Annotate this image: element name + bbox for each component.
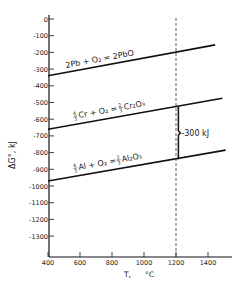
svg-text:3: 3 <box>73 115 77 121</box>
svg-text:Cr₂O₃: Cr₂O₃ <box>123 99 146 112</box>
svg-text:3: 3 <box>73 167 77 173</box>
y-tick-label: -100 <box>33 32 48 40</box>
x-axis: 400600800100012001400 <box>42 252 232 267</box>
y-tick-label: -600 <box>33 116 48 124</box>
y-tick-label: 0 <box>44 16 48 24</box>
x-tick-label: 1200 <box>168 259 185 267</box>
x-axis-title-t: T, <box>123 270 131 279</box>
y-tick-label: -1000 <box>29 183 48 191</box>
x-axis-title-unit: °C <box>145 270 154 279</box>
difference-bracket <box>177 108 180 159</box>
y-axis: 0-100-200-300-400-500-600-700-800-900-10… <box>29 15 54 257</box>
y-tick-label: -1100 <box>29 199 48 207</box>
y-tick-label: -1200 <box>29 216 48 224</box>
y-tick-label: -1300 <box>29 233 48 241</box>
difference-label: -300 kJ <box>181 129 209 138</box>
x-tick-label: 600 <box>74 259 86 267</box>
x-tick-label: 800 <box>106 259 118 267</box>
y-tick-label: -300 <box>33 66 48 74</box>
svg-text:3: 3 <box>119 107 123 113</box>
gibbs-energy-chart: 0-100-200-300-400-500-600-700-800-900-10… <box>0 0 246 297</box>
y-axis-title: ΔG°, kJ <box>8 141 17 169</box>
x-tick-label: 400 <box>42 259 54 267</box>
y-tick-label: -400 <box>33 82 48 90</box>
y-tick-label: -900 <box>33 166 48 174</box>
svg-text:Al₂O₃: Al₂O₃ <box>121 151 143 164</box>
x-tick-label: 1400 <box>200 259 217 267</box>
y-tick-label: -700 <box>33 132 48 140</box>
x-tick-label: 1000 <box>136 259 153 267</box>
y-tick-label: -800 <box>33 149 48 157</box>
y-tick-label: -200 <box>33 49 48 57</box>
svg-text:3: 3 <box>117 159 121 165</box>
y-tick-label: -500 <box>33 99 48 107</box>
